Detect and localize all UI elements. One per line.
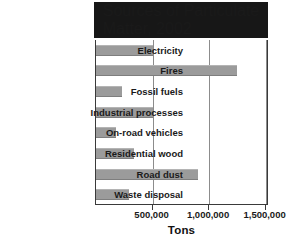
x-axis-title: Tons (95, 224, 268, 236)
category-label-road-dust: Road dust (0, 169, 183, 180)
page-title: Sources of Particulate Matter, 2002 (103, 2, 260, 38)
x-tick-label: 1,500,000 (234, 209, 290, 220)
x-tick-label: 500,000 (121, 209, 183, 220)
chart-title-line-1: Sources of Particulate (103, 2, 260, 20)
category-label-electricity: Electricity (0, 45, 183, 56)
gridline-1500000 (266, 40, 267, 204)
category-label-waste-disposal: Waste disposal (0, 189, 183, 200)
chart-title-line-2: Matter, 2002 (103, 20, 260, 38)
category-label-residential-wood: Residential wood (0, 148, 183, 159)
x-tick-label: 1,000,000 (177, 209, 239, 220)
particulate-matter-bar-chart: Sources of Particulate Matter, 2002 Elec… (0, 0, 290, 248)
category-label-on-road-vehicles: On-road vehicles (0, 127, 183, 138)
category-label-industrial-processes: Industrial processes (0, 107, 183, 118)
category-axis-labels: ElectricityFiresFossil fuelsIndustrial p… (0, 40, 191, 205)
plot-area: ElectricityFiresFossil fuelsIndustrial p… (95, 40, 268, 205)
category-label-fossil-fuels: Fossil fuels (0, 86, 183, 97)
category-label-fires: Fires (0, 65, 183, 76)
chart-title-banner: Sources of Particulate Matter, 2002 (94, 2, 268, 38)
